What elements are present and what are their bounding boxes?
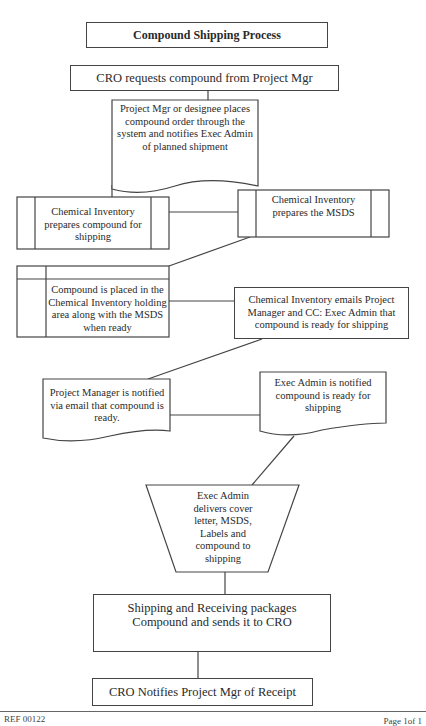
footer-reference: REF 00122 — [4, 714, 45, 724]
connector-exec-to-delivers — [252, 436, 294, 485]
connector-msds-to-placed — [169, 237, 250, 266]
node-pm-notified: Project Manager is notified via email th… — [48, 387, 166, 425]
node-ci-emails-label: Chemical Inventory emails Project Manage… — [248, 294, 396, 330]
node-exec-delivers: Exec Admin delivers cover letter, MSDS, … — [184, 490, 262, 565]
node-cro-request-label: CRO requests compound from Project Mgr — [96, 71, 312, 85]
node-shipping-packages: Shipping and Receiving packages Compound… — [93, 594, 331, 652]
connector-emails-to-pm — [148, 339, 262, 379]
footer-page-number: Page 1of 1 — [384, 716, 423, 726]
diagram-title: Compound Shipping Process — [133, 29, 281, 42]
node-pm-notified-label: Project Manager is notified via email th… — [50, 387, 165, 423]
node-exec-notified: Exec Admin is notified compound is ready… — [266, 377, 380, 415]
node-ci-emails: Chemical Inventory emails Project Manage… — [234, 287, 409, 339]
node-cro-notifies-label: CRO Notifies Project Mgr of Receipt — [109, 685, 296, 699]
node-pm-order-label: Project Mgr or designee places compound … — [117, 103, 253, 152]
node-pm-order: Project Mgr or designee places compound … — [116, 103, 254, 153]
node-exec-delivers-label: Exec Admin delivers cover letter, MSDS, … — [193, 490, 252, 564]
node-exec-notified-label: Exec Admin is notified compound is ready… — [274, 377, 371, 413]
footer-divider — [0, 711, 426, 712]
node-ci-prepares-msds-label: Chemical Inventory prepares the MSDS — [272, 194, 356, 218]
node-ci-prepares-compound: Chemical Inventory prepares compound for… — [37, 206, 149, 244]
diagram-title-box: Compound Shipping Process — [86, 22, 328, 48]
node-cro-request: CRO requests compound from Project Mgr — [70, 65, 339, 91]
node-cro-notifies: CRO Notifies Project Mgr of Receipt — [92, 678, 313, 706]
node-ci-prepares-msds: Chemical Inventory prepares the MSDS — [258, 194, 369, 219]
node-compound-placed: Compound is placed in the Chemical Inven… — [48, 284, 167, 334]
node-compound-placed-label: Compound is placed in the Chemical Inven… — [48, 284, 166, 333]
node-ci-prepares-compound-label: Chemical Inventory prepares compound for… — [44, 206, 141, 242]
node-shipping-packages-label: Shipping and Receiving packages Compound… — [127, 601, 296, 629]
